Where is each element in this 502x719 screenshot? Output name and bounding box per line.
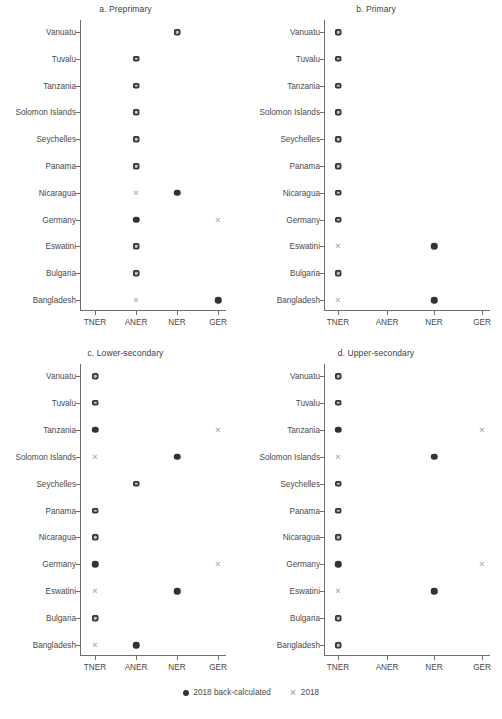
filled-circle-icon — [183, 690, 190, 697]
y-tick-mark — [320, 376, 324, 377]
marker-reported — [335, 588, 342, 595]
y-tick-mark — [320, 564, 324, 565]
y-tick-label: Tuvalu — [160, 398, 320, 407]
y-tick-label: Panama — [160, 506, 320, 515]
y-tick-mark — [320, 645, 324, 646]
x-tick-label: ANER — [376, 663, 399, 672]
y-tick-label: Seychelles — [160, 479, 320, 488]
marker-reported — [479, 561, 486, 568]
y-tick-label: Tanzania — [160, 425, 320, 434]
y-axis-d — [324, 364, 325, 655]
marker-back-calculated — [335, 507, 342, 514]
marker-back-calculated — [335, 534, 342, 541]
marker-back-calculated — [335, 427, 342, 434]
x-tick-label: TNER — [327, 663, 349, 672]
marker-back-calculated — [335, 480, 342, 487]
y-tick-mark — [320, 511, 324, 512]
y-tick-label: Bangladesh — [160, 641, 320, 650]
y-tick-mark — [320, 430, 324, 431]
marker-back-calculated — [431, 453, 438, 460]
x-tick-mark — [482, 656, 483, 660]
x-tick-label: GER — [473, 663, 491, 672]
x-tick-mark — [338, 656, 339, 660]
marker-back-calculated — [335, 561, 342, 568]
chart-legend: 2018 back-calculated×2018 — [0, 688, 502, 697]
y-tick-label: Vanuatu — [160, 372, 320, 381]
y-tick-label: Nicaragua — [160, 533, 320, 542]
legend-label: 2018 — [301, 688, 319, 697]
y-tick-label: Bulgaria — [160, 614, 320, 623]
y-tick-label: Germany — [160, 560, 320, 569]
legend-item: 2018 back-calculated — [183, 688, 271, 697]
marker-reported — [335, 453, 342, 460]
x-tick-label: NER — [425, 663, 442, 672]
y-tick-label: Eswatini — [160, 587, 320, 596]
y-tick-mark — [320, 618, 324, 619]
marker-reported — [479, 426, 486, 433]
y-tick-mark — [320, 403, 324, 404]
legend-label: 2018 back-calculated — [193, 688, 270, 697]
y-tick-mark — [320, 591, 324, 592]
marker-back-calculated — [335, 373, 342, 380]
y-tick-mark — [320, 457, 324, 458]
x-tick-mark — [387, 656, 388, 660]
marker-back-calculated — [335, 400, 342, 407]
y-tick-label: Solomon Islands — [160, 452, 320, 461]
x-cross-icon: × — [289, 689, 297, 697]
panel-d: d. Upper-secondaryVanuatuTuvaluTanzaniaS… — [0, 0, 502, 719]
x-tick-mark — [434, 656, 435, 660]
legend-item: ×2018 — [289, 688, 319, 697]
y-tick-mark — [320, 484, 324, 485]
panel-title-d: d. Upper-secondary — [250, 348, 502, 358]
x-axis-d — [324, 655, 490, 656]
figure-canvas: a. PreprimaryVanuatuTuvaluTanzaniaSolomo… — [0, 0, 502, 719]
marker-back-calculated — [335, 615, 342, 622]
marker-back-calculated — [335, 642, 342, 649]
marker-back-calculated — [431, 588, 438, 595]
y-tick-mark — [320, 537, 324, 538]
